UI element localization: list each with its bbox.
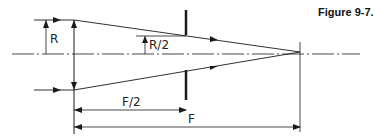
- arrow-icon: [210, 36, 218, 42]
- arrow-icon: [53, 87, 61, 93]
- lens-arrow-icon: [71, 20, 77, 28]
- half-radius-label: R/2: [149, 38, 169, 52]
- arrow-icon: [43, 20, 49, 28]
- arrow-icon: [210, 66, 218, 70]
- arrow-icon: [142, 36, 148, 43]
- lens-arrow-icon: [71, 82, 77, 90]
- optics-diagram: R R/2 F/2 F: [0, 0, 374, 140]
- focal-label: F: [188, 112, 195, 126]
- arrow-icon: [53, 17, 61, 23]
- radius-label: R: [50, 32, 58, 46]
- half-focal-label: F/2: [122, 95, 141, 109]
